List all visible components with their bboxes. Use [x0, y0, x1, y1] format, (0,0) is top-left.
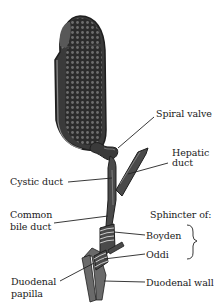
label-spiral-valve: Spiral valve: [156, 108, 212, 119]
bile-ducts: [106, 148, 148, 226]
label-common-bile-duct-line1: Common: [10, 209, 52, 220]
gallbladder: [55, 16, 106, 150]
label-duodenal-papilla-line2: papilla: [11, 288, 43, 299]
sphincter-rings: [94, 224, 124, 270]
label-common-bile-duct-line2: bile duct: [10, 221, 51, 232]
label-duodenal-papilla-line1: Duodenal: [11, 276, 56, 287]
label-sphincter-of: Sphincter of:: [150, 209, 211, 220]
label-duodenal-wall: Duodenal wall: [146, 277, 214, 288]
label-cystic-duct: Cystic duct: [10, 176, 63, 187]
label-boyden: Boyden: [146, 230, 181, 241]
label-hepatic-duct-line2: duct: [172, 157, 193, 168]
gallbladder-neck: [90, 143, 118, 161]
diagram-canvas: Spiral valve Hepatic duct Cystic duct Co…: [0, 0, 222, 307]
label-oddi: Oddi: [146, 249, 169, 260]
